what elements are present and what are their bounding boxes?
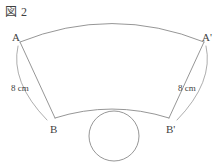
point-label-b: B — [50, 124, 57, 135]
point-label-b-prime: B' — [166, 124, 175, 135]
geometry-diagram — [0, 0, 224, 163]
rolling-circle — [89, 111, 139, 161]
point-label-a-prime: A' — [202, 32, 212, 43]
length-label-right: 8 cm — [178, 83, 196, 93]
length-label-left: 8 cm — [11, 83, 29, 93]
point-label-a: A — [12, 32, 20, 43]
figure-container: 図 2 A A' B B' 8 cm 8 cm — [0, 0, 224, 163]
outer-arc-path — [20, 24, 204, 43]
inner-arc-path — [55, 109, 169, 118]
figure-caption: 図 2 — [5, 5, 28, 19]
right-edge-path — [169, 42, 204, 118]
left-edge-path — [20, 42, 55, 118]
